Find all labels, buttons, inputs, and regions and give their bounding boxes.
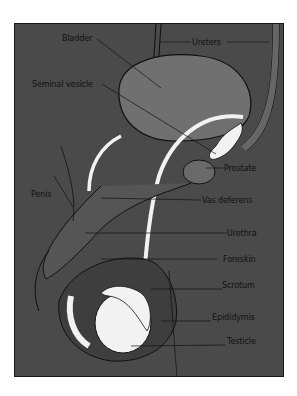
prostate-shape (183, 160, 215, 184)
label-urethra: Urethra (227, 229, 257, 238)
label-scrotum: Scrotum (222, 281, 255, 290)
label-penis: Penis (31, 190, 51, 199)
label-ureters: Ureters (192, 38, 221, 47)
label-epididymis: Epididymis (212, 313, 255, 322)
label-bladder: Bladder (62, 34, 92, 43)
label-vas-deferens: Vas deferens (202, 196, 252, 205)
label-seminal-vesicle: Seminal vesicle (32, 80, 93, 89)
label-foreskin: Foreskin (223, 255, 256, 264)
diagram-frame: Bladder Ureters Seminal vesicle Penis Pr… (14, 23, 284, 377)
label-prostate: Prostate (224, 164, 256, 173)
label-testicle: Testicle (227, 337, 256, 346)
bladder-shape (119, 55, 251, 141)
vas-deferens-loop-left (89, 136, 121, 191)
